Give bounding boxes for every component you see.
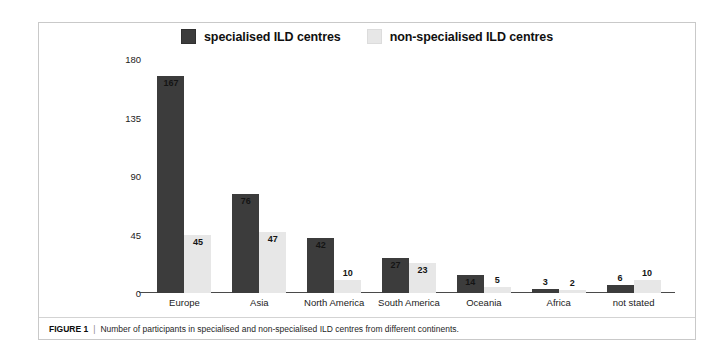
bar-column[interactable]: 76	[232, 59, 259, 293]
bar-group: 4210	[297, 59, 372, 293]
caption-body-text: Number of participants in specialised an…	[100, 324, 458, 334]
bar-groups: 1674576474210272314532610	[147, 59, 671, 293]
bar-specialised[interactable]	[382, 258, 409, 293]
bar-non-specialised[interactable]	[184, 235, 211, 294]
caption-figure-number: FIGURE 1	[49, 324, 88, 334]
x-axis-tick-label: Asia	[222, 297, 297, 313]
x-axis-tick-label: South America	[372, 297, 447, 313]
bar-value-label: 10	[634, 269, 661, 278]
bar-specialised[interactable]	[157, 76, 184, 293]
y-axis-tick-180: 180	[125, 54, 141, 65]
bar-group: 2723	[372, 59, 447, 293]
bar-column[interactable]: 167	[157, 59, 184, 293]
figure-caption: FIGURE 1 | Number of participants in spe…	[39, 317, 695, 339]
bar-value-label: 5	[484, 276, 511, 285]
bar-column[interactable]: 2	[559, 59, 586, 293]
y-axis-tick-135: 135	[125, 112, 141, 123]
bar-non-specialised[interactable]	[409, 263, 436, 293]
bar-non-specialised[interactable]	[559, 290, 586, 293]
y-axis-tick-0: 0	[136, 288, 141, 299]
bar-specialised[interactable]	[607, 285, 634, 293]
x-axis-tick-label: Oceania	[446, 297, 521, 313]
bar-group: 7647	[222, 59, 297, 293]
bar-group: 145	[446, 59, 521, 293]
bar-column[interactable]: 42	[307, 59, 334, 293]
bar-value-label: 2	[559, 279, 586, 288]
y-axis-tick-90: 90	[130, 171, 141, 182]
bar-column[interactable]: 10	[334, 59, 361, 293]
x-axis-tick-label: Africa	[521, 297, 596, 313]
bar-non-specialised[interactable]	[634, 280, 661, 293]
plot-area: 04590135180 1674576474210272314532610	[147, 59, 671, 293]
bar-group: 32	[521, 59, 596, 293]
bar-non-specialised[interactable]	[259, 232, 286, 293]
legend-entry-specialised: specialised ILD centres	[181, 29, 341, 44]
bar-column[interactable]: 14	[457, 59, 484, 293]
bar-specialised[interactable]	[532, 289, 559, 293]
chart-legend: specialised ILD centres non-specialised …	[39, 29, 695, 44]
bar-value-label: 6	[607, 274, 634, 283]
legend-label-non-specialised: non-specialised ILD centres	[390, 30, 553, 44]
bar-value-label: 3	[532, 278, 559, 287]
legend-entry-non-specialised: non-specialised ILD centres	[367, 29, 553, 44]
legend-label-specialised: specialised ILD centres	[204, 30, 341, 44]
bar-column[interactable]: 6	[607, 59, 634, 293]
bar-specialised[interactable]	[232, 194, 259, 293]
legend-swatch-non-specialised-icon	[367, 29, 382, 44]
legend-swatch-specialised-icon	[181, 29, 196, 44]
y-axis-tick-45: 45	[130, 229, 141, 240]
bar-column[interactable]: 5	[484, 59, 511, 293]
bar-column[interactable]: 23	[409, 59, 436, 293]
bar-non-specialised[interactable]	[484, 287, 511, 294]
bar-column[interactable]: 27	[382, 59, 409, 293]
bar-non-specialised[interactable]	[334, 280, 361, 293]
bar-column[interactable]: 45	[184, 59, 211, 293]
figure-container: specialised ILD centres non-specialised …	[38, 22, 696, 340]
bar-specialised[interactable]	[307, 238, 334, 293]
bar-value-label: 10	[334, 269, 361, 278]
bar-column[interactable]: 3	[532, 59, 559, 293]
bar-column[interactable]: 47	[259, 59, 286, 293]
x-axis-tick-label: North America	[297, 297, 372, 313]
y-axis: 04590135180	[103, 59, 141, 293]
bar-column[interactable]: 10	[634, 59, 661, 293]
bar-specialised[interactable]	[457, 275, 484, 293]
x-axis-tick-label: not stated	[596, 297, 671, 313]
bar-group: 610	[596, 59, 671, 293]
bar-group: 16745	[147, 59, 222, 293]
x-axis-tick-label: Europe	[147, 297, 222, 313]
x-axis-labels: EuropeAsiaNorth AmericaSouth AmericaOcea…	[147, 297, 671, 313]
caption-separator: |	[93, 324, 95, 334]
